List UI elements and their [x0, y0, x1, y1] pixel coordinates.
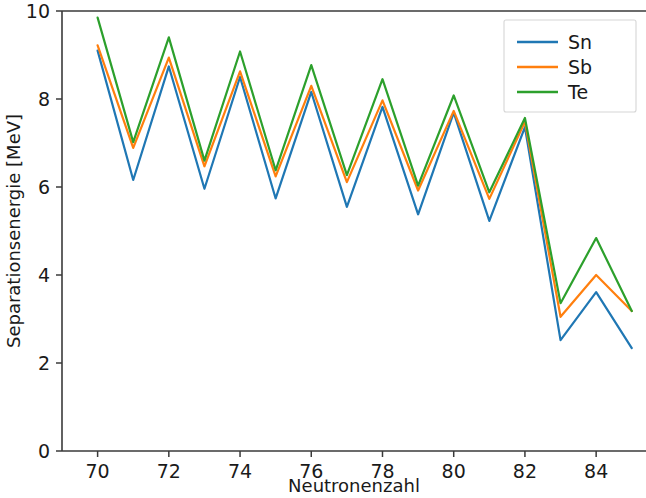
legend-label-sn: Sn — [568, 31, 592, 53]
y-axis-title: Separationsenergie [MeV] — [3, 114, 24, 348]
x-tick-label: 74 — [228, 460, 252, 482]
y-tick-label: 6 — [38, 176, 50, 198]
x-tick-label: 80 — [442, 460, 466, 482]
legend-label-sb: Sb — [568, 56, 592, 78]
x-tick-label: 84 — [584, 460, 608, 482]
line-chart-canvas: 0246810 7072747678808284 SnSbTe Neutrone… — [0, 0, 646, 498]
legend-label-te: Te — [567, 81, 588, 103]
y-tick-label: 10 — [26, 0, 50, 22]
x-tick-label: 70 — [86, 460, 110, 482]
y-tick-label: 4 — [38, 264, 50, 286]
chart-legend: SnSbTe — [504, 20, 636, 112]
y-axis-ticks: 0246810 — [26, 0, 62, 462]
y-tick-label: 2 — [38, 352, 50, 374]
chart-figure: 0246810 7072747678808284 SnSbTe Neutrone… — [0, 0, 646, 498]
x-axis-title: Neutronenzahl — [288, 475, 420, 496]
y-tick-label: 8 — [38, 88, 50, 110]
x-tick-label: 82 — [513, 460, 537, 482]
x-tick-label: 72 — [157, 460, 181, 482]
y-tick-label: 0 — [38, 440, 50, 462]
